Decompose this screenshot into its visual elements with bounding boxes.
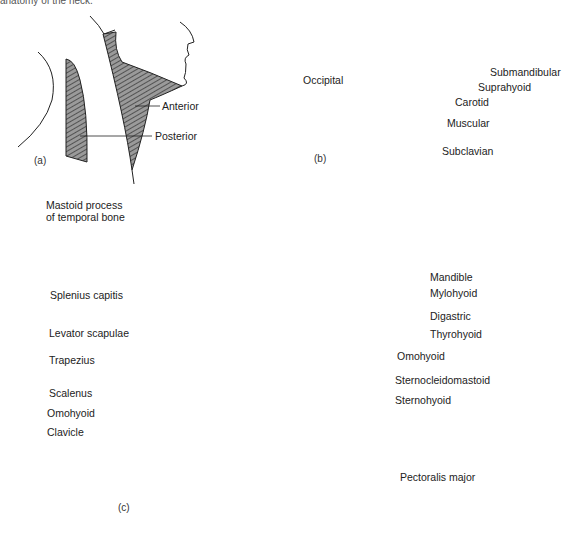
- label-omohyoid-left: Omohyoid: [47, 407, 95, 419]
- label-clavicle: Clavicle: [47, 426, 84, 438]
- label-levator-scapulae: Levator scapulae: [49, 327, 129, 339]
- label-suprahyoid: Suprahyoid: [478, 81, 531, 93]
- label-mandible: Mandible: [430, 271, 473, 283]
- label-submandibular: Submandibular: [490, 66, 561, 78]
- label-digastric: Digastric: [430, 310, 471, 322]
- label-subclavian: Subclavian: [442, 145, 493, 157]
- panel-b-tag: (b): [314, 153, 326, 164]
- label-trapezius: Trapezius: [49, 354, 95, 366]
- label-thyrohyoid: Thyrohyoid: [430, 328, 482, 340]
- label-scalenus: Scalenus: [49, 387, 92, 399]
- label-occipital: Occipital: [303, 74, 343, 86]
- label-carotid: Carotid: [455, 96, 489, 108]
- panel-c-tag: (c): [118, 502, 130, 513]
- label-omohyoid-right: Omohyoid: [397, 350, 445, 362]
- label-sternocleidomastoid: Sternocleidomastoid: [395, 374, 490, 386]
- label-mastoid-process: Mastoid process of temporal bone: [46, 199, 125, 223]
- label-splenius-capitis: Splenius capitis: [50, 289, 123, 301]
- label-sternohyoid: Sternohyoid: [395, 394, 451, 406]
- label-mylohyoid: Mylohyoid: [430, 287, 477, 299]
- label-posterior: Posterior: [155, 130, 197, 142]
- label-anterior: Anterior: [162, 100, 199, 112]
- label-muscular: Muscular: [447, 117, 490, 129]
- panel-a-tag: (a): [34, 155, 46, 166]
- label-pectoralis-major: Pectoralis major: [400, 471, 475, 483]
